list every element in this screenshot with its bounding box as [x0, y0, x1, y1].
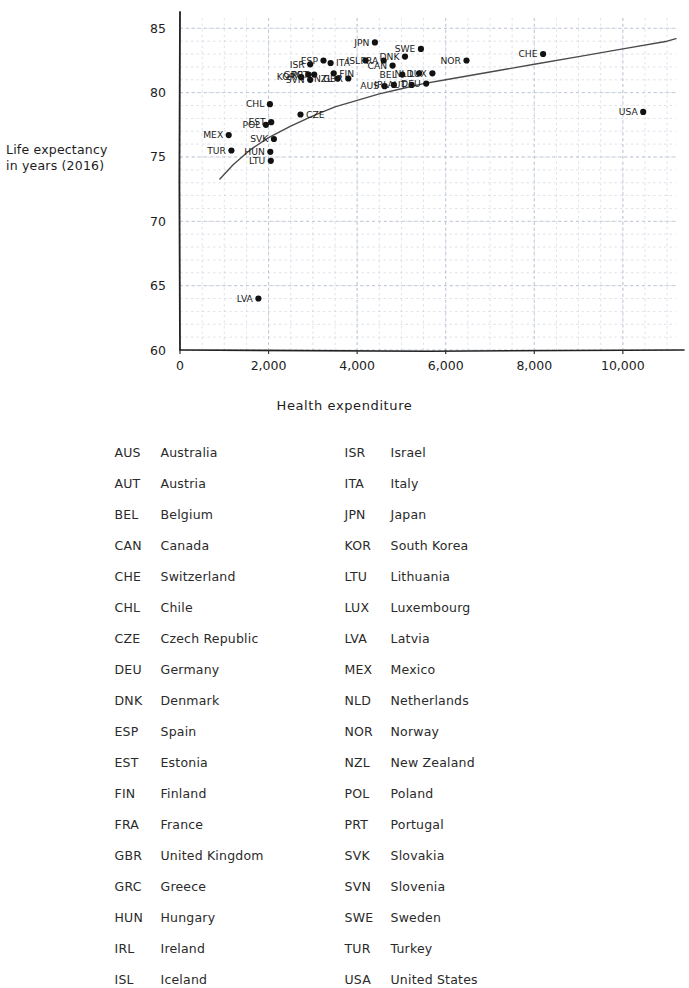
country-code-legend: AUSAustraliaAUTAustriaBELBelgiumCANCanad…	[0, 445, 689, 988]
legend-country-code: SWE	[345, 910, 391, 925]
legend-row: CANCanada	[115, 538, 345, 569]
legend-row: HUNHungary	[115, 910, 345, 941]
data-point-che[interactable]: CHE	[518, 48, 546, 59]
data-point-marker[interactable]	[423, 81, 429, 87]
data-point-nor[interactable]: NOR	[441, 55, 470, 66]
legend-country-code: SVN	[345, 879, 391, 894]
data-point-label: DEU	[401, 78, 421, 89]
legend-country-code: POL	[345, 786, 391, 801]
legend-country-code: ISL	[115, 972, 161, 987]
data-point-marker[interactable]	[226, 132, 232, 138]
chart-container: 60657075808502,0004,0006,0008,00010,000M…	[0, 0, 689, 430]
data-point-label: NOR	[441, 55, 462, 66]
legend-country-code: SVK	[345, 848, 391, 863]
legend-row: NORNorway	[345, 724, 575, 755]
legend-country-name: Hungary	[161, 910, 345, 925]
data-point-marker[interactable]	[429, 70, 435, 76]
data-point-marker[interactable]	[271, 136, 277, 142]
data-point-jpn[interactable]: JPN	[353, 37, 378, 48]
legend-country-name: Iceland	[161, 972, 345, 987]
legend-country-code: FRA	[115, 817, 161, 832]
data-point-marker[interactable]	[297, 111, 303, 117]
data-point-marker[interactable]	[267, 101, 273, 107]
data-point-swe[interactable]: SWE	[395, 43, 424, 54]
legend-row: MEXMexico	[345, 662, 575, 693]
data-point-mex[interactable]: MEX	[203, 129, 232, 140]
legend-row: ITAItaly	[345, 476, 575, 507]
scatter-plot: 60657075808502,0004,0006,0008,00010,000M…	[0, 0, 689, 430]
data-point-marker[interactable]	[418, 46, 424, 52]
legend-country-code: ESP	[115, 724, 161, 739]
legend-country-code: HUN	[115, 910, 161, 925]
legend-country-name: Canada	[161, 538, 345, 553]
legend-country-name: Poland	[391, 786, 575, 801]
data-point-marker[interactable]	[328, 60, 334, 66]
y-axis-tick-label: 85	[150, 21, 166, 36]
legend-row: ESTEstonia	[115, 755, 345, 786]
legend-row: USAUnited States	[345, 972, 575, 988]
data-point-esp[interactable]: ESP	[301, 55, 327, 66]
legend-row: ISRIsrael	[345, 445, 575, 476]
legend-country-name: Chile	[161, 600, 345, 615]
legend-country-code: GBR	[115, 848, 161, 863]
legend-row: FRAFrance	[115, 817, 345, 848]
y-axis-label-line1: Life expectancy	[6, 142, 136, 158]
legend-row: BELBelgium	[115, 507, 345, 538]
y-axis-tick-label: 65	[150, 278, 166, 293]
legend-country-code: ISR	[345, 445, 391, 460]
data-point-marker[interactable]	[640, 109, 646, 115]
data-point-marker[interactable]	[402, 54, 408, 60]
legend-column-left: AUSAustraliaAUTAustriaBELBelgiumCANCanad…	[115, 445, 345, 988]
legend-row: ISLIceland	[115, 972, 345, 988]
legend-row: FINFinland	[115, 786, 345, 817]
data-point-marker[interactable]	[267, 149, 273, 155]
legend-row: CHLChile	[115, 600, 345, 631]
legend-country-name: Latvia	[391, 631, 575, 646]
legend-country-name: Israel	[391, 445, 575, 460]
legend-country-code: MEX	[345, 662, 391, 677]
legend-country-code: LUX	[345, 600, 391, 615]
data-point-usa[interactable]: USA	[619, 106, 647, 117]
legend-country-code: AUT	[115, 476, 161, 491]
legend-row: DNKDenmark	[115, 693, 345, 724]
data-point-lux[interactable]: LUX	[409, 68, 435, 79]
data-point-marker[interactable]	[372, 39, 378, 45]
legend-row: NZLNew Zealand	[345, 755, 575, 786]
legend-country-name: Australia	[161, 445, 345, 460]
y-axis-label-line2: in years (2016)	[6, 158, 136, 174]
legend-row: TURTurkey	[345, 941, 575, 972]
data-point-hun[interactable]: HUN	[244, 146, 273, 157]
legend-country-code: LVA	[345, 631, 391, 646]
data-point-label: LUX	[409, 68, 427, 79]
data-point-marker[interactable]	[463, 57, 469, 63]
data-point-marker[interactable]	[540, 51, 546, 57]
legend-country-code: IRL	[115, 941, 161, 956]
data-point-marker[interactable]	[268, 119, 274, 125]
data-point-marker[interactable]	[228, 147, 234, 153]
data-point-lva[interactable]: LVA	[237, 293, 262, 304]
data-point-label: JPN	[353, 37, 369, 48]
legend-row: LTULithuania	[345, 569, 575, 600]
legend-country-name: Italy	[391, 476, 575, 491]
legend-country-name: France	[161, 817, 345, 832]
legend-column-right: ISRIsraelITAItalyJPNJapanKORSouth KoreaL…	[345, 445, 575, 988]
legend-country-name: Switzerland	[161, 569, 345, 584]
legend-row: SVNSlovenia	[345, 879, 575, 910]
legend-country-code: LTU	[345, 569, 391, 584]
data-point-marker[interactable]	[255, 295, 261, 301]
legend-row: IRLIreland	[115, 941, 345, 972]
data-point-marker[interactable]	[345, 75, 351, 81]
legend-row: SWESweden	[345, 910, 575, 941]
data-point-tur[interactable]: TUR	[206, 145, 234, 156]
x-axis-tick-label: 8,000	[516, 358, 552, 373]
data-point-deu[interactable]: DEU	[401, 78, 429, 89]
legend-country-code: BEL	[115, 507, 161, 522]
data-point-marker[interactable]	[320, 57, 326, 63]
legend-country-name: Portugal	[391, 817, 575, 832]
data-point-marker[interactable]	[268, 158, 274, 164]
legend-country-code: DEU	[115, 662, 161, 677]
legend-country-code: ITA	[345, 476, 391, 491]
data-point-chl[interactable]: CHL	[246, 98, 273, 109]
legend-country-name: Slovenia	[391, 879, 575, 894]
data-point-label: ISL	[346, 55, 361, 66]
